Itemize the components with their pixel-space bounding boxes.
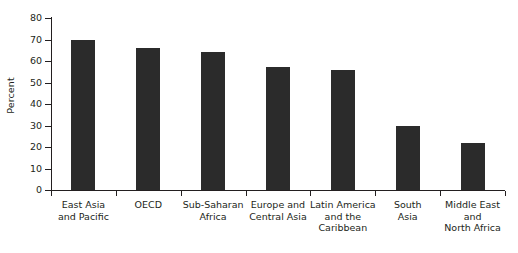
x-axis-category-label: East Asiaand Pacific [46,199,121,222]
x-axis-line [51,190,505,191]
x-axis-category-label-line: Sub-Saharan [176,199,251,211]
y-axis-tick [45,104,51,105]
bar [136,48,160,190]
bar [461,143,485,190]
y-axis-tick-label: 80 [16,13,42,23]
y-axis-tick [45,126,51,127]
bar [201,52,225,190]
y-axis-tick [45,169,51,170]
y-axis-tick-label: 60 [16,56,42,66]
x-axis-category-label-line: Latin America [305,199,380,211]
x-axis-category-label: SouthAsia [370,199,445,222]
y-axis-tick-label: 70 [16,35,42,45]
x-axis-tick [51,191,52,196]
y-axis-tick [45,147,51,148]
bar [396,126,420,191]
x-axis-category-label-line: East Asia [46,199,121,211]
x-axis-category-label-line: North Africa [435,222,510,234]
x-axis-tick [310,191,311,196]
x-axis-category-label-line: Central Asia [241,211,316,223]
x-axis-category-label-line: and Pacific [46,211,121,223]
bar [71,40,95,191]
x-axis-tick [505,191,506,196]
y-axis-tick [45,83,51,84]
y-axis-tick [45,18,51,19]
y-axis-tick-label: 40 [16,99,42,109]
y-axis-tick [45,40,51,41]
y-axis-tick-label: 20 [16,142,42,152]
y-axis-tick [45,61,51,62]
x-axis-tick [246,191,247,196]
x-axis-category-label: Sub-SaharanAfrica [176,199,251,222]
x-axis-category-label-line: Europe and [241,199,316,211]
bar [266,67,290,190]
x-axis-category-label: Middle East andNorth Africa [435,199,510,234]
x-axis-category-label: Europe andCentral Asia [241,199,316,222]
x-axis-tick [440,191,441,196]
y-axis-tick-label: 30 [16,121,42,131]
x-axis-category-label-line: Middle East and [435,199,510,222]
x-axis-category-label: OECD [111,199,186,211]
x-axis-category-label: Latin Americaand theCaribbean [305,199,380,234]
bar-chart: Percent 01020304050607080 East Asiaand P… [0,0,518,253]
y-axis-tick-label: 0 [16,185,42,195]
x-axis-tick [181,191,182,196]
x-axis-category-label-line: Africa [176,211,251,223]
x-axis-category-label-line: Caribbean [305,222,380,234]
y-axis-tick-label: 50 [16,78,42,88]
x-axis-category-label-line: and the [305,211,380,223]
x-axis-tick [375,191,376,196]
y-axis-line [51,17,52,191]
y-axis-tick-labels: 01020304050607080 [8,0,42,253]
bar [331,70,355,190]
y-axis-tick-label: 10 [16,164,42,174]
x-axis-tick [116,191,117,196]
x-axis-category-label-line: OECD [111,199,186,211]
x-axis-category-label-line: South [370,199,445,211]
x-axis-category-label-line: Asia [370,211,445,223]
